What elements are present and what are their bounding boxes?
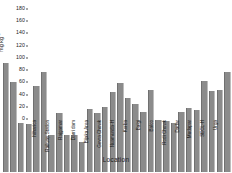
x-tick-label: Dadar [175,120,180,133]
x-tick-label: Korba [124,120,129,132]
x-tick-label: Balgi [136,120,141,130]
x-axis-tick-labels: NiharicaRailway StationRajgamarDarri dam… [31,120,227,156]
x-tick-label: Mudapar [188,120,193,138]
x-tick-label: Railway Station [46,120,51,152]
x-tick-label: Balco [149,120,154,132]
x-tick-label: Rajgamar [59,120,64,140]
x-axis-title: Location [0,156,232,163]
x-tick-label: Urga [214,120,219,130]
x-tick-label: Niharica [33,120,38,137]
x-tick-label: Bijaka Area [85,120,90,143]
x-tick-slot [220,120,226,156]
x-tick-label: SECL-H [201,120,206,137]
bar-chart: mg kg-1 020406080100120140160180 Niharic… [0,0,232,173]
x-tick-label: Darri dam [72,120,77,140]
x-tick-label: Gevra Chowk [98,120,103,148]
bar [18,123,24,172]
x-tick-label: Nuamunda-H [111,120,116,147]
x-tick-label: Rodi Chowk [162,120,167,145]
